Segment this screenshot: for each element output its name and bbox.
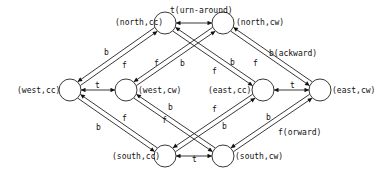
state-node-east-cw (309, 79, 331, 101)
edge-label-backward: b(ackward) (269, 49, 317, 58)
edge-label-forward: f(orward) (278, 128, 321, 137)
edge-south-cw-to-west-cw (136, 94, 215, 148)
edge-label-turn-around: t(urn-around) (170, 6, 233, 15)
edge-label-f-northcw-eastcw: f (253, 59, 258, 68)
edge-label-b-westcc-northcc: b (104, 48, 109, 57)
edge-west-cw-to-south-cw (134, 98, 213, 152)
state-diagram: (north,cc) (north,cw) (west,cc) (west,cw… (0, 0, 388, 172)
edge-north-cw-to-east-cw (231, 31, 310, 85)
edge-label-t-east: t (290, 81, 295, 90)
edge-label-b-eastcc-southcc: b (222, 122, 227, 131)
edge-north-cc-to-west-cc (78, 27, 155, 81)
edge-label-b-eastcc-northcc: b (230, 58, 235, 67)
edge-south-cc-to-west-cc (80, 94, 157, 147)
state-node-north-cw (212, 12, 234, 34)
edge-label-f-westcw-northcw: f (154, 59, 159, 68)
edge-label-b-westcw-southcw: b (168, 103, 173, 112)
edge-label-b-southcw-eastcw: b (266, 113, 271, 122)
edge-label-b-southcc-westcc: b (96, 123, 101, 132)
edge-label-t-south: t (192, 155, 197, 164)
edge-label-f-northcc-eastcc: f (212, 67, 217, 76)
node-label-east-cw: (east,cw) (332, 86, 375, 95)
node-label-west-cw: (west,cw) (138, 86, 181, 95)
state-node-south-cw (212, 145, 234, 167)
node-label-west-cc: (west,cc) (17, 86, 60, 95)
edge-east-cc-to-south-cc (173, 94, 253, 148)
edge-west-cw-to-north-cw (136, 31, 215, 85)
node-label-east-cc: (east,cc) (208, 86, 251, 95)
edge-west-cc-to-north-cc (80, 31, 157, 85)
state-node-west-cc (59, 79, 81, 101)
node-label-south-cw: (south,cw) (235, 152, 283, 161)
edge-north-cw-to-west-cw (134, 27, 213, 81)
state-node-west-cw (115, 79, 137, 101)
edge-label-f-westcc-southcc: f (122, 114, 127, 123)
edge-label-t-west: t (95, 81, 100, 90)
node-label-north-cc: (north,cc) (115, 18, 163, 27)
edge-label-f-northcc-westcc: f (122, 61, 127, 70)
node-label-north-cw: (north,cw) (236, 18, 284, 27)
edge-label-f-southcw-westcw: f (162, 116, 167, 125)
edge-south-cw-to-east-cw (233, 98, 312, 152)
edge-label-b-northcw-westcw: b (180, 59, 185, 68)
state-node-east-cc (252, 79, 274, 101)
edge-west-cc-to-south-cc (78, 98, 155, 151)
node-label-south-cc: (south,cc) (112, 152, 160, 161)
edge-label-f-southcc-eastcc: f (212, 105, 217, 114)
